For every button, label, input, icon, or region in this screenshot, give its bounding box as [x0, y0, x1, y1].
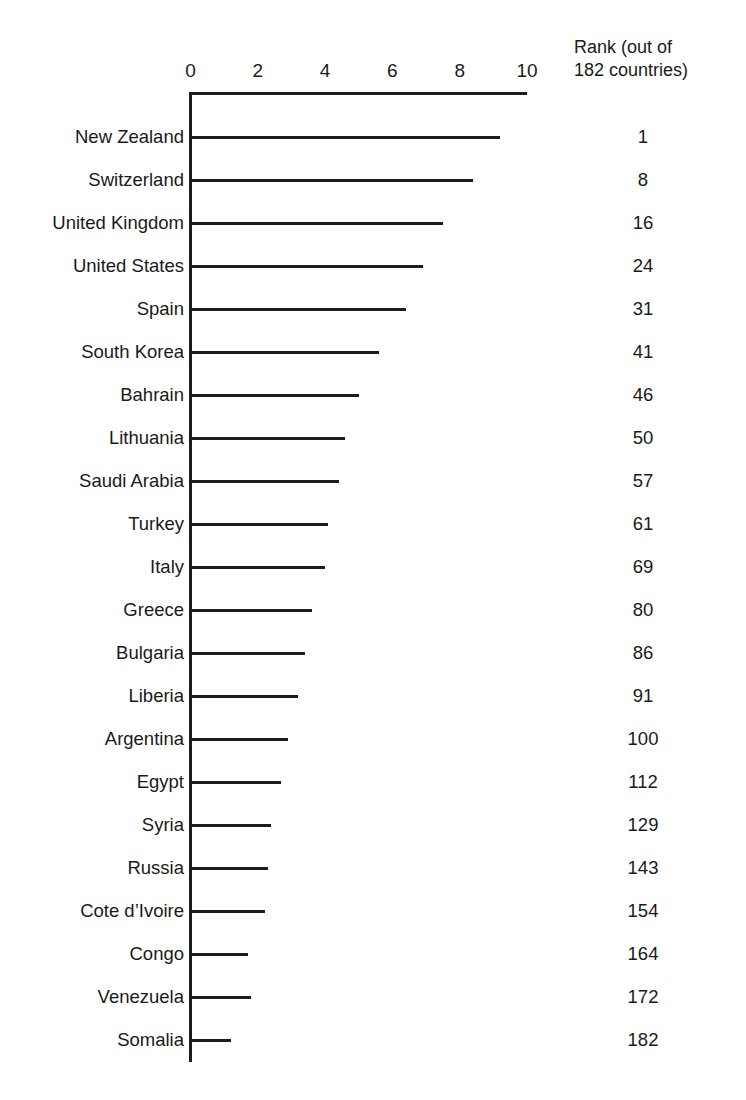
chart-row: Switzerland8: [0, 167, 746, 193]
category-label: Argentina: [105, 726, 184, 752]
bar: [191, 136, 501, 139]
bar: [191, 953, 248, 956]
chart-row: Egypt112: [0, 769, 746, 795]
horizontal-bar-chart: 0246810 Rank (out of 182 countries) New …: [0, 0, 746, 1100]
bar: [191, 523, 329, 526]
rank-value: 50: [603, 425, 683, 451]
x-tick-2: 2: [253, 61, 264, 80]
chart-row: South Korea41: [0, 339, 746, 365]
category-label: South Korea: [81, 339, 184, 365]
rank-value: 164: [603, 941, 683, 967]
rank-value: 172: [603, 984, 683, 1010]
bar: [191, 480, 339, 483]
rank-value: 86: [603, 640, 683, 666]
rank-value: 100: [603, 726, 683, 752]
chart-row: Lithuania50: [0, 425, 746, 451]
category-label: Egypt: [137, 769, 184, 795]
rank-value: 69: [603, 554, 683, 580]
rank-value: 24: [603, 253, 683, 279]
category-label: Venezuela: [98, 984, 184, 1010]
bar: [191, 609, 312, 612]
x-tick-8: 8: [454, 61, 465, 80]
category-label: Switzerland: [88, 167, 184, 193]
rank-value: 57: [603, 468, 683, 494]
bar: [191, 738, 289, 741]
category-label: Bulgaria: [116, 640, 184, 666]
bar: [191, 996, 252, 999]
chart-row: Greece80: [0, 597, 746, 623]
bar: [191, 308, 406, 311]
category-label: New Zealand: [75, 124, 184, 150]
rank-value: 80: [603, 597, 683, 623]
rank-value: 61: [603, 511, 683, 537]
rank-value: 46: [603, 382, 683, 408]
bar: [191, 179, 474, 182]
chart-row: Turkey61: [0, 511, 746, 537]
rank-value: 182: [603, 1027, 683, 1053]
category-label: Saudi Arabia: [79, 468, 184, 494]
chart-row: Bulgaria86: [0, 640, 746, 666]
bar: [191, 910, 265, 913]
category-label: United States: [73, 253, 184, 279]
category-label: Spain: [137, 296, 184, 322]
chart-row: Argentina100: [0, 726, 746, 752]
category-label: Greece: [123, 597, 184, 623]
chart-row: Somalia182: [0, 1027, 746, 1053]
category-label: Lithuania: [109, 425, 184, 451]
x-tick-10: 10: [516, 61, 537, 80]
rank-column-header: Rank (out of 182 countries): [574, 36, 734, 82]
rank-value: 41: [603, 339, 683, 365]
chart-row: Bahrain46: [0, 382, 746, 408]
category-label: Congo: [129, 941, 184, 967]
x-tick-0: 0: [185, 61, 196, 80]
rank-value: 112: [603, 769, 683, 795]
bar: [191, 1039, 231, 1042]
chart-row: United States24: [0, 253, 746, 279]
category-label: Somalia: [117, 1027, 184, 1053]
bar: [191, 824, 272, 827]
category-label: Turkey: [128, 511, 184, 537]
bar: [191, 781, 282, 784]
rank-value: 8: [603, 167, 683, 193]
bar: [191, 695, 299, 698]
chart-row: Cote d’Ivoire154: [0, 898, 746, 924]
category-label: Syria: [142, 812, 184, 838]
rank-value: 129: [603, 812, 683, 838]
x-tick-6: 6: [387, 61, 398, 80]
rank-value: 1: [603, 124, 683, 150]
rank-value: 31: [603, 296, 683, 322]
chart-row: Venezuela172: [0, 984, 746, 1010]
chart-row: Saudi Arabia57: [0, 468, 746, 494]
rank-value: 16: [603, 210, 683, 236]
bar: [191, 566, 326, 569]
chart-row: Congo164: [0, 941, 746, 967]
bar: [191, 394, 359, 397]
bar: [191, 265, 423, 268]
chart-row: Spain31: [0, 296, 746, 322]
category-label: Cote d’Ivoire: [80, 898, 184, 924]
rank-value: 154: [603, 898, 683, 924]
rank-value: 91: [603, 683, 683, 709]
chart-row: Liberia91: [0, 683, 746, 709]
rank-column-header-line-2: 182 countries): [574, 59, 734, 82]
rank-value: 143: [603, 855, 683, 881]
bar: [191, 351, 379, 354]
chart-row: Syria129: [0, 812, 746, 838]
chart-row: Italy69: [0, 554, 746, 580]
category-label: Italy: [150, 554, 184, 580]
x-tick-4: 4: [320, 61, 331, 80]
bar: [191, 652, 305, 655]
category-label: Liberia: [128, 683, 184, 709]
chart-row: United Kingdom16: [0, 210, 746, 236]
bar: [191, 222, 443, 225]
rank-column-header-line-1: Rank (out of: [574, 36, 734, 59]
category-label: Russia: [127, 855, 184, 881]
bar: [191, 867, 268, 870]
category-label: United Kingdom: [52, 210, 184, 236]
chart-row: New Zealand1: [0, 124, 746, 150]
chart-row: Russia143: [0, 855, 746, 881]
x-axis-line: [191, 92, 528, 95]
bar: [191, 437, 346, 440]
category-label: Bahrain: [120, 382, 184, 408]
